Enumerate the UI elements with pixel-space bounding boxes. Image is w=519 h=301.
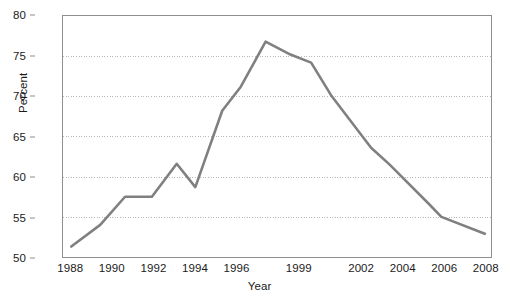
y-tick-mark [30, 96, 35, 97]
x-tick-label: 1996 [223, 262, 249, 274]
y-tick-label: 55 [13, 212, 26, 224]
y-tick-mark [30, 136, 35, 137]
series-polyline [71, 42, 485, 247]
x-tick-label: 2004 [390, 262, 416, 274]
x-axis-title: Year [0, 280, 519, 292]
x-tick-label: 1988 [57, 262, 83, 274]
plot-area [62, 15, 492, 258]
x-tick-label: 1990 [99, 262, 125, 274]
x-axis-tick-labels: 1988199019921994199619992002200420062008 [0, 262, 519, 280]
y-tick-mark [30, 217, 35, 218]
y-axis-title: Percent [17, 73, 29, 113]
y-tick-label: 60 [13, 171, 26, 183]
y-tick-label: 75 [13, 50, 26, 62]
y-tick-label: 80 [13, 9, 26, 21]
x-tick-label: 2006 [431, 262, 457, 274]
y-tick-mark [30, 55, 35, 56]
x-tick-label: 2008 [473, 262, 499, 274]
y-tick-mark [30, 258, 35, 259]
data-series-line [63, 16, 491, 257]
x-tick-label: 2002 [348, 262, 374, 274]
y-axis-tick-labels: 50556065707580 [0, 0, 62, 301]
y-tick-mark [30, 15, 35, 16]
y-tick-label: 65 [13, 131, 26, 143]
x-tick-label: 1999 [286, 262, 312, 274]
line-chart-figure: 50556065707580 Percent 19881990199219941… [0, 0, 519, 301]
x-tick-label: 1994 [182, 262, 208, 274]
y-tick-mark [30, 177, 35, 178]
x-tick-label: 1992 [140, 262, 166, 274]
